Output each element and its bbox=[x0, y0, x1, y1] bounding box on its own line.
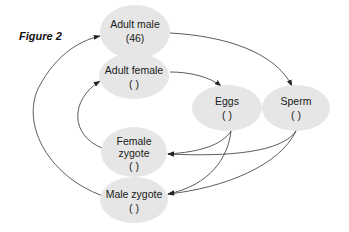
node-label-line: Adult female bbox=[105, 64, 164, 76]
node-count: ( ) bbox=[291, 109, 301, 121]
node-count: ( ) bbox=[129, 202, 139, 214]
node-label-line: zygote bbox=[119, 147, 150, 159]
edge-sperm-to-male-zygote bbox=[168, 131, 296, 194]
node-label-line: Sperm bbox=[281, 95, 312, 107]
node-adult-male: Adult male (46) bbox=[100, 5, 170, 59]
edge-eggs-to-female-zygote bbox=[168, 131, 231, 154]
node-label-line: Male zygote bbox=[106, 188, 163, 200]
node-count: ( ) bbox=[129, 160, 139, 172]
node-count: ( ) bbox=[222, 109, 232, 121]
node-count: ( ) bbox=[129, 78, 139, 90]
node-count: (46) bbox=[126, 32, 145, 44]
node-adult-female: Adult female ( ) bbox=[99, 53, 169, 99]
edge-adult-female-to-eggs bbox=[170, 72, 221, 86]
node-female-zygote: Female zygote ( ) bbox=[101, 127, 167, 177]
node-label-line: Eggs bbox=[215, 95, 239, 107]
edge-adult-male-to-sperm bbox=[170, 33, 292, 86]
edge-sperm-to-female-zygote bbox=[168, 131, 296, 155]
life-cycle-diagram: Adult male (46) Adult female ( ) Eggs ( … bbox=[0, 0, 349, 232]
node-label-line: Adult male bbox=[110, 18, 160, 30]
node-sperm: Sperm ( ) bbox=[262, 85, 330, 131]
edge-male-zygote-to-adult-male bbox=[33, 36, 103, 196]
node-male-zygote: Male zygote ( ) bbox=[100, 177, 168, 223]
node-eggs: Eggs ( ) bbox=[192, 85, 262, 131]
node-label-line: Female bbox=[116, 135, 151, 147]
edge-female-zygote-to-adult-female bbox=[78, 81, 102, 148]
